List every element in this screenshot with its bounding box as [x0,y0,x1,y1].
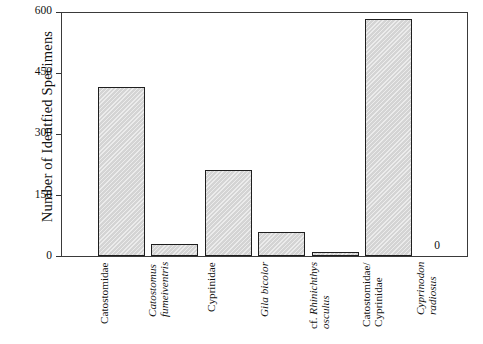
bar-catostomidae-cyprinidae [365,19,412,256]
bar-chart-figure: Number of Identfied Specimens 600 450 30… [0,0,483,344]
plot-area: 0 [61,12,468,257]
x-tick-label-gila-bicolor: Gila bicolor [259,262,271,317]
y-tick-label-0: 0 [18,250,52,262]
bar-catostomus-fumeiventris [151,244,198,256]
bar-cf-rhinichthys-osculus [312,252,359,256]
x-tick-label-cf-rhinichthys-osculus: cf. Rhinichthys osculus [308,262,331,329]
y-tick-label-300: 300 [18,127,52,139]
x-tick-label-cyprinidae: Cyprinidae [206,262,218,312]
bar-cyprinidae [205,170,252,256]
bar-value-label-cyprinodon-radiosus: 0 [422,240,452,252]
x-tick-label-catostomidae: Catostomidae [99,262,111,324]
bar-catostomidae [98,87,145,256]
y-tick-label-450: 450 [18,66,52,78]
x-tick-label-catostomidae-cyprinidae: Catostomidae/ Cyprinidae [361,262,384,327]
bar-gila-bicolor [258,232,305,256]
x-tick-label-catostomus-fumeiventris: Catostomus fumeiventris [147,262,170,317]
y-tick-label-150: 150 [18,189,52,201]
y-tick-label-600: 600 [18,5,52,17]
x-tick-label-cyprinodon-radiosus: Cyprinodon radiosus [415,262,438,315]
